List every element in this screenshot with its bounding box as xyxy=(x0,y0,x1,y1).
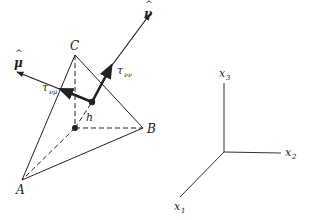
tau-nunu-subscript: νν xyxy=(124,71,132,79)
axis-x3-subscript: 3 xyxy=(226,74,231,82)
axis-x3-label: x xyxy=(219,67,226,80)
tetrahedron-stress-diagram: C B A h ^ ν τ νν ^ μ τ νμ x 3 x 2 x 1 xyxy=(0,0,310,220)
vertex-label-c: C xyxy=(70,39,79,53)
tau-numu-arrow xyxy=(65,91,92,102)
axis-x2 xyxy=(224,152,281,153)
axis-x1-label: x xyxy=(174,200,181,213)
mu-vector xyxy=(17,72,92,102)
edge-ab xyxy=(22,128,143,180)
tau-nunu-arrow xyxy=(92,70,109,102)
height-label: h xyxy=(86,111,93,124)
dashed-base-to-a xyxy=(22,128,75,180)
nu-hat-label: ν xyxy=(144,7,153,21)
axis-x2-label: x xyxy=(285,146,292,159)
axis-x2-subscript: 2 xyxy=(291,153,297,161)
tau-numu-label: τ xyxy=(42,81,49,94)
nu-vector xyxy=(92,14,150,102)
base-point-dot xyxy=(72,125,78,131)
vertex-label-a: A xyxy=(15,183,25,197)
vertex-label-b: B xyxy=(146,122,156,136)
coordinate-axes xyxy=(180,83,281,197)
nu-hat-arrow xyxy=(107,14,150,72)
mu-hat-label: μ xyxy=(14,56,23,70)
axis-x1-subscript: 1 xyxy=(181,207,185,215)
axis-x1 xyxy=(180,152,224,197)
tau-numu-subscript: νμ xyxy=(49,88,57,96)
edge-ca xyxy=(22,55,75,180)
tau-nunu-label: τ xyxy=(117,64,124,77)
